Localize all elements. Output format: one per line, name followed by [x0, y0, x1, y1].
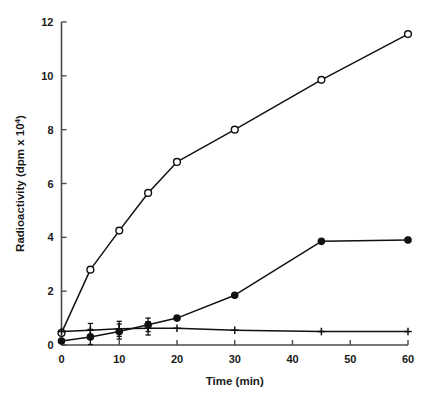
- x-tick-labels: 0102030405060: [58, 353, 414, 365]
- y-tick-label-10: 10: [41, 70, 53, 82]
- x-axis-title: Time (min): [206, 375, 264, 387]
- y-tick-label-2: 2: [47, 285, 53, 297]
- radioactivity-vs-time-line-chart: 0102030405060 024681012 Time (min)Radioa…: [0, 0, 424, 399]
- open-circle-series-marker-60: [405, 31, 412, 38]
- y-tick-label-0: 0: [47, 339, 53, 351]
- x-tick-label-30: 30: [229, 353, 241, 365]
- filled-circle-series-marker-30: [232, 292, 238, 298]
- x-tick-label-20: 20: [171, 353, 183, 365]
- open-circle-series-marker-20: [174, 159, 181, 166]
- y-tick-label-4: 4: [47, 231, 54, 243]
- filled-circle-series-marker-60: [405, 237, 411, 243]
- y-axis-title: Radioactivity (dpm x 104): [13, 115, 26, 252]
- chart-figure: 0102030405060 024681012 Time (min)Radioa…: [0, 0, 424, 399]
- filled-circle-series-marker-20: [174, 315, 180, 321]
- data-series: [58, 31, 412, 344]
- open-circle-series-marker-5: [87, 266, 94, 273]
- open-circle-series-marker-10: [116, 227, 123, 234]
- open-circle-series-marker-15: [145, 190, 152, 197]
- filled-circle-series-line: [62, 240, 409, 341]
- y-tick-labels: 024681012: [41, 16, 54, 351]
- x-tick-label-0: 0: [58, 353, 64, 365]
- x-tick-label-10: 10: [113, 353, 125, 365]
- filled-circle-series-marker-5: [87, 334, 93, 340]
- y-tick-label-8: 8: [47, 124, 53, 136]
- open-circle-series-marker-30: [231, 126, 238, 133]
- x-tick-label-40: 40: [286, 353, 298, 365]
- x-tick-label-60: 60: [402, 353, 414, 365]
- open-circle-series-line: [62, 34, 409, 333]
- filled-circle-series-marker-0: [58, 338, 64, 344]
- y-tick-label-6: 6: [47, 178, 53, 190]
- y-tick-label-12: 12: [41, 16, 53, 28]
- filled-circle-series-marker-45: [318, 238, 324, 244]
- x-tick-label-50: 50: [344, 353, 356, 365]
- open-circle-series-marker-45: [318, 76, 325, 83]
